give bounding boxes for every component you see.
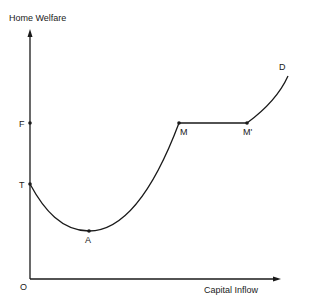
point-M-prime bbox=[245, 121, 249, 125]
point-F bbox=[28, 121, 32, 125]
x-axis-arrow-icon bbox=[273, 277, 281, 282]
point-T bbox=[28, 182, 32, 186]
welfare-chart: Home Welfare Capital Inflow O F T A M M'… bbox=[0, 0, 324, 307]
label-F: F bbox=[19, 119, 25, 129]
label-M: M bbox=[180, 127, 188, 137]
label-A: A bbox=[85, 235, 91, 245]
x-axis-label: Capital Inflow bbox=[204, 285, 259, 295]
label-T: T bbox=[19, 180, 25, 190]
y-axis-arrow-icon bbox=[28, 29, 33, 37]
origin-label: O bbox=[20, 282, 27, 292]
label-D: D bbox=[279, 62, 286, 72]
label-M-prime: M' bbox=[243, 127, 252, 137]
point-M bbox=[177, 121, 181, 125]
welfare-curve bbox=[30, 76, 288, 231]
point-A bbox=[87, 229, 91, 233]
y-axis-label: Home Welfare bbox=[9, 13, 66, 23]
